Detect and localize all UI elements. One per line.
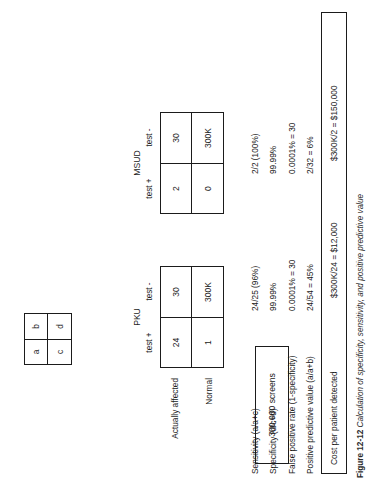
table-title-msud: MSUD	[132, 112, 142, 214]
metric-value-specificity-msud: 99.99%	[268, 146, 278, 174]
table-column-headers-msud: test + test -	[145, 112, 154, 214]
cell-pku-a: 24	[161, 317, 192, 367]
metric-value-positive-predictive-value-msud: 2/32 = 6%	[305, 136, 315, 174]
cell-msud-c: 0	[192, 163, 223, 213]
matrix-msud: 2 30 0 300K	[160, 112, 224, 214]
legend-cell-b: b	[25, 314, 48, 339]
metric-value-specificity-pku: 99.99%	[268, 283, 278, 311]
cell-msud-a: 2	[161, 163, 192, 213]
metric-value-false-positive-rate-pku: 0.0001% = 30	[287, 260, 297, 311]
legend-cell-a: a	[25, 339, 48, 364]
figure-caption-text: Calculation of specificity, sensitivity,…	[356, 194, 365, 428]
figure-caption-number: Figure 12-12	[356, 430, 365, 478]
contingency-table-msud: MSUD test + test - 2 30 0 300K	[160, 112, 224, 214]
cost-value-msud: $300K/2 = $150,000	[329, 85, 339, 161]
metric-label-positive-predictive-value: Positive predictive value (a/a+b)	[305, 356, 315, 474]
figure-caption: Figure 12-12 Calculation of specificity,…	[356, 194, 365, 478]
cell-msud-b: 30	[161, 113, 192, 163]
rotated-page-stage: 300,000 screens a b c d Actually affecte…	[0, 0, 372, 486]
contingency-table-pku: PKU test + test - 24 30 1 300K	[160, 266, 224, 368]
metric-label-sensitivity: Sensitivity (a/a+c)	[250, 408, 260, 474]
metric-value-false-positive-rate-msud: 0.0001% = 30	[287, 123, 297, 174]
metric-value-sensitivity-msud: 2/2 (100%)	[250, 133, 260, 174]
metric-label-specificity: Specificity (d/c+d)	[268, 408, 278, 474]
cell-pku-d: 300K	[192, 267, 223, 317]
abcd-legend-box: a b c d	[24, 313, 72, 365]
figure-page: 300,000 screens a b c d Actually affecte…	[0, 0, 372, 486]
table-title-pku: PKU	[132, 266, 142, 368]
col-header-test-negative-msud: test -	[145, 112, 154, 163]
legend-cell-d: d	[48, 314, 71, 339]
cost-summary-box: Cost per patient detected $300K/24 = $12…	[321, 12, 347, 474]
metric-value-positive-predictive-value-pku: 24/54 = 45%	[305, 264, 315, 311]
cell-msud-d: 300K	[192, 113, 223, 163]
col-header-test-negative-pku: test -	[145, 266, 154, 317]
cell-pku-b: 30	[161, 267, 192, 317]
metric-label-false-positive-rate: False positive rate (1-specificity)	[287, 356, 297, 475]
metric-value-sensitivity-pku: 24/25 (96%)	[250, 266, 260, 311]
legend-cell-c: c	[48, 339, 71, 364]
col-header-test-positive-pku: test +	[145, 317, 154, 368]
cost-value-pku: $300K/24 = $12,000	[329, 222, 339, 298]
matrix-pku: 24 30 1 300K	[160, 266, 224, 368]
cost-label: Cost per patient detected	[329, 371, 339, 465]
row-label-normal: Normal	[204, 378, 214, 474]
row-label-actually-affected: Actually affected	[170, 378, 180, 474]
cell-pku-c: 1	[192, 317, 223, 367]
table-column-headers-pku: test + test -	[145, 266, 154, 368]
col-header-test-positive-msud: test +	[145, 163, 154, 214]
